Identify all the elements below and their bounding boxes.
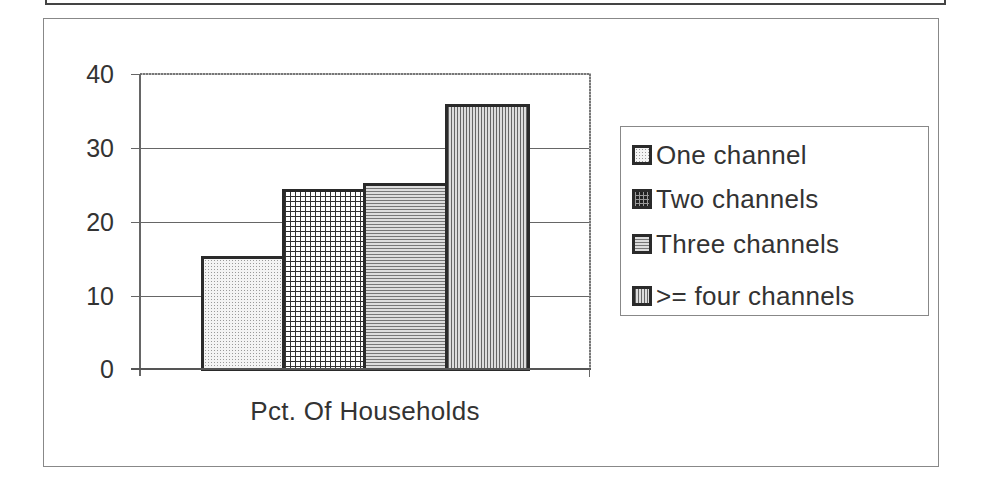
ytick-label-30: 30: [54, 136, 114, 161]
legend-label: >= four channels: [656, 281, 855, 312]
ytick-label-40: 40: [54, 62, 114, 87]
legend-label: Three channels: [656, 229, 839, 260]
legend-swatch-vlines-icon: [632, 286, 652, 306]
legend-item-four-plus-channels: >= four channels: [632, 281, 855, 311]
legend-label: One channel: [656, 140, 807, 171]
ytick-label-0: 0: [54, 357, 114, 382]
bar-four-plus-channels: [445, 104, 530, 371]
x-axis: [131, 368, 591, 370]
plot-border-top: [140, 73, 591, 75]
ytick-label-20: 20: [54, 210, 114, 235]
y-axis: [139, 74, 141, 376]
x-axis-tick: [589, 369, 590, 377]
legend-item-one-channel: One channel: [632, 140, 807, 170]
plot-border-right: [589, 73, 591, 370]
legend-item-two-channels: Two channels: [632, 184, 819, 214]
legend-swatch-dots-icon: [632, 145, 652, 165]
bar-one-channel: [201, 256, 285, 371]
bar-two-channels: [282, 189, 366, 371]
ytick-label-10: 10: [54, 284, 114, 309]
x-axis-label: Pct. Of Households: [140, 396, 590, 427]
top-frame-box: [45, 0, 946, 5]
legend-swatch-grid-icon: [632, 189, 652, 209]
bar-three-channels: [363, 183, 448, 371]
legend-item-three-channels: Three channels: [632, 229, 839, 259]
legend-swatch-hlines-icon: [632, 234, 652, 254]
legend: One channel Two channels Three channels …: [620, 126, 929, 316]
legend-label: Two channels: [656, 184, 819, 215]
